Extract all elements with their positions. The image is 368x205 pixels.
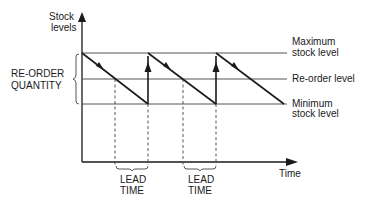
- reorder-quantity-label: RE-ORDER: [11, 68, 64, 79]
- y-axis-label: levels: [51, 22, 77, 33]
- reorder-quantity-label: QUANTITY: [11, 80, 62, 91]
- x-axis-label: Time: [279, 168, 301, 179]
- lead-time-label: TIME: [120, 185, 144, 196]
- replenishment-arrow-icon: [145, 62, 152, 72]
- lead-time-brace: [184, 166, 216, 171]
- stock-level-diagram: Stock levels RE-ORDER QUANTITY Maximum s…: [0, 0, 368, 205]
- y-axis-arrow-icon: [78, 12, 86, 22]
- depletion-arrow-icon: [96, 62, 104, 70]
- maximum-level-label: stock level: [292, 47, 339, 58]
- reorder-quantity-brace: [73, 54, 79, 104]
- reorder-level-label: Re-order level: [292, 73, 355, 84]
- depletion-arrow-icon: [163, 62, 171, 70]
- lead-time-label: LEAD: [188, 174, 214, 185]
- x-axis-arrow-icon: [286, 158, 298, 166]
- y-axis-label: Stock: [49, 11, 75, 22]
- maximum-level-label: Maximum: [292, 36, 335, 47]
- minimum-level-label: stock level: [292, 108, 339, 119]
- lead-time-label: TIME: [188, 185, 212, 196]
- depletion-arrow-icon: [231, 62, 239, 70]
- lead-time-label: LEAD: [120, 174, 146, 185]
- replenishment-arrow-icon: [213, 62, 220, 72]
- lead-time-brace: [116, 166, 148, 171]
